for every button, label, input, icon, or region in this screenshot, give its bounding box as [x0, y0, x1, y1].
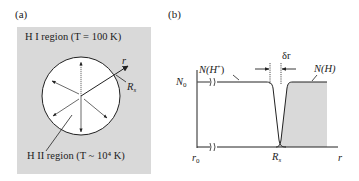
- break-mark-top: [210, 78, 215, 86]
- break-mark-bottom: [210, 143, 215, 151]
- delta-r-label: δr: [282, 50, 290, 61]
- panel-b-label: (b): [168, 8, 181, 20]
- hi-region-label: H I region (T = 100 K): [25, 31, 121, 42]
- panel-b-graphics: [197, 63, 338, 151]
- panel-a-label: (a): [15, 8, 27, 20]
- rs-label: Rs: [127, 81, 136, 94]
- hii-region-label: H II region (T ~ 10⁴ K): [27, 150, 125, 161]
- r-axis-label-b: r: [338, 152, 342, 163]
- r0-label: r0: [192, 152, 200, 165]
- ion-curve: [217, 82, 286, 147]
- r-axis-label: r: [122, 55, 126, 66]
- n0-label: N0: [176, 76, 187, 89]
- ion-curve-label: N(H+): [199, 63, 224, 75]
- neutral-curve-label: N(H): [314, 63, 336, 74]
- rs-axis-label: Rs: [272, 151, 281, 164]
